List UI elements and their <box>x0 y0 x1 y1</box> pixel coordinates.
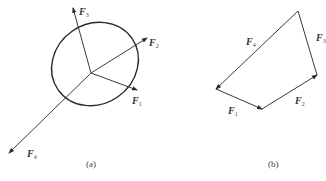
label-f1: F1 <box>131 95 142 107</box>
caption-b: (b) <box>268 159 279 169</box>
figure-b: F4 F3 F1 F2 (b) <box>216 11 326 169</box>
force-arrow-f4 <box>9 73 91 153</box>
figure-a: F3 F2 F1 F4 (a) <box>9 5 159 169</box>
label-b-f2: F2 <box>294 95 305 107</box>
label-f3: F3 <box>78 6 89 18</box>
force-diagram: F3 F2 F1 F4 (a) F4 F3 F1 F2 (b) <box>0 0 326 181</box>
force-arrow-f1 <box>91 73 137 90</box>
polygon-f2 <box>262 75 317 109</box>
polygon-f1 <box>216 89 262 109</box>
polygon-f3 <box>298 11 317 75</box>
caption-a: (a) <box>86 159 96 169</box>
label-f4: F4 <box>26 148 37 160</box>
label-b-f4: F4 <box>245 36 256 48</box>
label-f2: F2 <box>148 37 159 49</box>
label-b-f1: F1 <box>227 105 238 117</box>
label-b-f3: F3 <box>315 32 326 44</box>
polygon-f4 <box>216 11 298 89</box>
